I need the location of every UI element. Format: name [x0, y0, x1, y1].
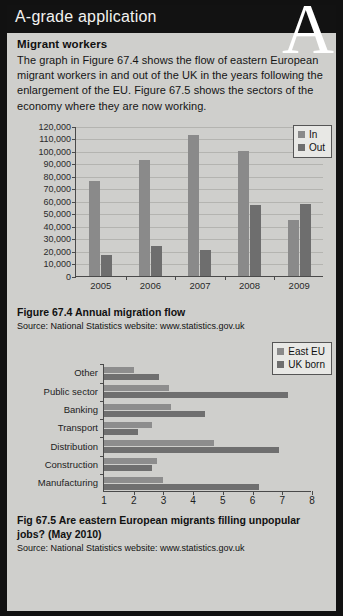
- bar: [104, 440, 214, 446]
- bar: [104, 465, 152, 471]
- bar-group: [104, 456, 311, 474]
- bar: [104, 392, 288, 398]
- x-axis-tick-mark: [225, 276, 226, 280]
- y-axis-tick-mark: [100, 437, 104, 438]
- chart1-legend: InOut: [293, 125, 332, 158]
- legend-item: East EU: [277, 345, 325, 358]
- y-axis-category-label: Transport: [58, 423, 104, 433]
- bar: [104, 422, 152, 428]
- figure2-caption: Fig 67.5 Are eastern European migrants f…: [17, 514, 326, 541]
- legend-label: In: [309, 128, 317, 141]
- bar: [104, 477, 163, 483]
- x-axis-tick-label: 2005: [90, 280, 111, 291]
- bar: [104, 429, 138, 435]
- x-axis-tick-label: 5: [220, 495, 226, 506]
- chart2-plot-area: OtherPublic sectorBankingTransportDistri…: [103, 364, 311, 492]
- x-axis-tick-mark: [274, 276, 275, 280]
- x-axis-tick-label: 6: [250, 495, 256, 506]
- legend-label: Out: [309, 141, 325, 154]
- y-axis-category-label: Distribution: [50, 442, 104, 452]
- y-axis-tick-mark: [100, 474, 104, 475]
- x-axis-tick-label: 4: [190, 495, 196, 506]
- y-axis-category-label: Other: [74, 368, 104, 378]
- textbook-page: A-grade application A Migrant workers Th…: [0, 0, 343, 616]
- bar: [104, 404, 171, 410]
- figure2-source: Source: National Statistics website: www…: [17, 542, 326, 554]
- x-axis-tick-mark: [253, 491, 254, 495]
- bar: [300, 204, 311, 276]
- y-axis-category-label: Public sector: [44, 387, 104, 397]
- figure1-caption: Figure 67.4 Annual migration flow: [17, 306, 326, 320]
- y-axis-category-label: Construction: [45, 460, 104, 470]
- bar: [139, 160, 150, 276]
- y-axis-tick-mark: [72, 277, 76, 278]
- x-axis-tick-mark: [134, 491, 135, 495]
- bar: [200, 250, 211, 276]
- bar: [104, 385, 169, 391]
- chart-sector-employment: OtherPublic sectorBankingTransportDistri…: [17, 342, 340, 514]
- x-axis-tick-label: 2009: [289, 280, 310, 291]
- chart1-plot-area: 010,00020,00030,00040,00050,00060,00070,…: [75, 127, 323, 277]
- figure1-caption-block: Figure 67.4 Annual migration flow Source…: [7, 306, 336, 333]
- y-axis-category-label: Banking: [64, 405, 104, 415]
- chart2-legend: East EUUK born: [272, 342, 332, 375]
- y-axis-tick-mark: [100, 456, 104, 457]
- legend-swatch-icon: [277, 361, 284, 368]
- x-axis-tick-label: 1: [101, 495, 107, 506]
- chart2-wrap: OtherPublic sectorBankingTransportDistri…: [7, 342, 336, 514]
- bar: [188, 135, 199, 276]
- legend-swatch-icon: [298, 144, 305, 151]
- bar-group: [104, 383, 311, 401]
- x-axis-tick-label: 2008: [239, 280, 260, 291]
- bar-group: [104, 419, 311, 437]
- bar: [288, 220, 299, 276]
- x-axis-tick-mark: [175, 276, 176, 280]
- bar-group: 2005: [76, 127, 126, 276]
- page-header: A-grade application: [7, 5, 336, 33]
- y-axis-tick-mark: [100, 364, 104, 365]
- bar: [104, 458, 157, 464]
- legend-item: Out: [298, 141, 325, 154]
- bar: [250, 205, 261, 276]
- article-paragraph: The graph in Figure 67.4 shows the flow …: [17, 53, 326, 114]
- bar: [101, 255, 112, 276]
- bar: [151, 246, 162, 276]
- figure1-source: Source: National Statistics website: www…: [17, 320, 326, 332]
- x-axis-tick-mark: [312, 491, 313, 495]
- y-axis-tick-label: 100,000: [38, 147, 76, 156]
- x-axis-tick-label: 2007: [189, 280, 210, 291]
- y-axis-tick-label: 120,000: [38, 122, 76, 131]
- x-axis-tick-mark: [193, 491, 194, 495]
- article-body: Migrant workers The graph in Figure 67.4…: [7, 33, 336, 306]
- x-axis-tick-mark: [282, 491, 283, 495]
- legend-item: UK born: [277, 358, 325, 371]
- y-axis-tick-label: 110,000: [39, 135, 76, 144]
- bar: [238, 151, 249, 276]
- y-axis-tick-mark: [100, 401, 104, 402]
- legend-item: In: [298, 128, 325, 141]
- y-axis-tick-mark: [100, 419, 104, 420]
- bar-group: [104, 401, 311, 419]
- legend-swatch-icon: [298, 131, 305, 138]
- y-axis-category-label: Manufacturing: [38, 478, 104, 488]
- page-title: A-grade application: [15, 8, 157, 26]
- bar-group: 2008: [225, 127, 275, 276]
- x-axis-tick-mark: [126, 276, 127, 280]
- bar: [104, 447, 279, 453]
- x-axis-tick-label: 7: [280, 495, 286, 506]
- bar-group: 2006: [126, 127, 176, 276]
- bar: [104, 374, 159, 380]
- x-axis-tick-label: 2: [131, 495, 137, 506]
- legend-label: UK born: [288, 358, 325, 371]
- article-subheading: Migrant workers: [17, 38, 326, 50]
- legend-label: East EU: [288, 345, 325, 358]
- legend-swatch-icon: [277, 348, 284, 355]
- x-axis-tick-label: 3: [161, 495, 167, 506]
- bar: [104, 367, 134, 373]
- x-axis-tick-label: 8: [309, 495, 315, 506]
- bar: [104, 411, 205, 417]
- chart-annual-migration-flow: 010,00020,00030,00040,00050,00060,00070,…: [17, 121, 340, 306]
- bar: [89, 181, 100, 276]
- bar: [104, 484, 259, 490]
- x-axis-tick-mark: [223, 491, 224, 495]
